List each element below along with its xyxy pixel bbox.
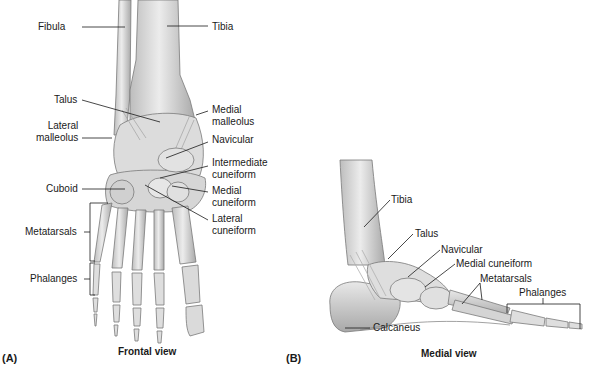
label-fibula: Fibula: [38, 21, 65, 33]
label-metatarsals-frontal: Metatarsals: [25, 226, 77, 238]
label-medial-cuneiform-medial: Medial cuneiform: [456, 258, 532, 270]
label-lateral-malleolus: Lateral malleolus: [36, 120, 78, 144]
label-navicular-frontal: Navicular: [212, 134, 254, 146]
panel-tag-b: (B): [286, 352, 301, 364]
anatomy-illustration: [0, 0, 589, 376]
label-navicular-medial: Navicular: [441, 244, 483, 256]
label-medial-malleolus: Medial malleolus: [212, 104, 254, 128]
label-talus-medial: Talus: [415, 228, 438, 240]
label-phalanges-frontal: Phalanges: [30, 273, 77, 285]
label-calcaneus: Calcaneus: [373, 322, 420, 334]
caption-frontal-view: Frontal view: [118, 346, 176, 357]
frontal-foot-illustration: [93, 0, 206, 343]
label-cuboid: Cuboid: [46, 183, 78, 195]
caption-medial-view: Medial view: [421, 348, 477, 359]
label-talus-frontal: Talus: [54, 94, 77, 106]
label-tibia-frontal: Tibia: [212, 21, 233, 33]
panel-tag-a: (A): [2, 352, 17, 364]
label-medial-cuneiform-frontal: Medial cuneiform: [212, 185, 256, 209]
label-phalanges-medial: Phalanges: [519, 287, 566, 299]
label-lateral-cuneiform: Lateral cuneiform: [212, 213, 256, 237]
label-tibia-medial: Tibia: [391, 194, 412, 206]
label-intermediate-cuneiform: Intermediate cuneiform: [212, 157, 268, 181]
label-metatarsals-medial: Metatarsals: [480, 273, 532, 285]
